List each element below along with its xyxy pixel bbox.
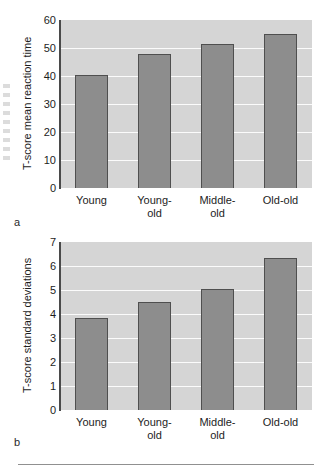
bar	[75, 318, 108, 410]
y-tick-label: 0	[50, 183, 56, 194]
panel-b-y-axis-line	[59, 242, 61, 411]
page-margin-text-sliver	[3, 84, 10, 162]
y-tick-label: 2	[50, 357, 56, 368]
panel-a-bars	[60, 20, 312, 188]
panel-b-y-tick-labels: 01234567	[34, 242, 56, 410]
x-tick-label: Young	[60, 194, 123, 219]
x-tick-label: Old-old	[249, 416, 312, 441]
chart-panel-a: T-score mean reaction time 0102030405060…	[0, 0, 330, 232]
y-tick-label: 6	[50, 261, 56, 272]
y-tick-label: 0	[50, 405, 56, 416]
x-tick-label: Old-old	[249, 194, 312, 219]
panel-a-y-axis-title: T-score mean reaction time	[22, 18, 33, 188]
panel-a-letter: a	[14, 216, 20, 228]
y-tick-label: 5	[50, 285, 56, 296]
x-tick-label: Middle-old	[186, 194, 249, 219]
x-tick-label: Young	[60, 416, 123, 441]
y-tick-label: 4	[50, 309, 56, 320]
figure-bar-charts: T-score mean reaction time 0102030405060…	[0, 0, 330, 475]
panel-a-plot-area	[60, 20, 312, 188]
y-tick-label: 30	[44, 99, 56, 110]
bar	[264, 258, 297, 410]
panel-b-letter: b	[14, 436, 20, 448]
bar	[201, 289, 234, 410]
chart-panel-b: T-score standard deviations 01234567 You…	[0, 232, 330, 457]
panel-a-x-tick-labels: YoungYoung-oldMiddle-oldOld-old	[60, 194, 312, 219]
y-tick-label: 3	[50, 333, 56, 344]
x-tick-label: Young-old	[123, 416, 186, 441]
panel-a-y-tick-labels: 0102030405060	[34, 20, 56, 188]
panel-b-x-tick-labels: YoungYoung-oldMiddle-oldOld-old	[60, 416, 312, 441]
panel-b-plot-area	[60, 242, 312, 410]
y-tick-label: 50	[44, 43, 56, 54]
panel-b-bars	[60, 242, 312, 410]
bar	[138, 302, 171, 410]
x-tick-label: Middle-old	[186, 416, 249, 441]
x-tick-label: Young-old	[123, 194, 186, 219]
panel-a-y-axis-line	[59, 20, 61, 189]
panel-b-y-axis-title: T-score standard deviations	[22, 240, 33, 410]
y-tick-label: 7	[50, 237, 56, 248]
bar	[75, 75, 108, 188]
y-tick-label: 1	[50, 381, 56, 392]
y-tick-label: 20	[44, 127, 56, 138]
y-tick-label: 10	[44, 155, 56, 166]
bar	[201, 44, 234, 188]
bar	[264, 34, 297, 188]
bar	[138, 54, 171, 188]
y-tick-label: 60	[44, 15, 56, 26]
y-tick-label: 40	[44, 71, 56, 82]
footer-divider	[18, 464, 314, 465]
